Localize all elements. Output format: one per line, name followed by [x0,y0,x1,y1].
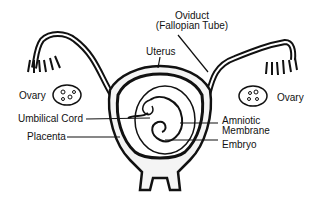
label-placenta: Placenta [27,132,66,142]
amniotic-sac [135,86,195,154]
label-embryo: Embryo [222,140,256,150]
label-amniotic-membrane: Amniotic Membrane [222,116,270,136]
label-ovary-left: Ovary [19,91,46,101]
label-oviduct-line2: (Fallopian Tube) [152,21,232,31]
left-ovary [53,85,81,105]
label-oviduct: Oviduct (Fallopian Tube) [152,11,232,31]
label-amniotic-line2: Membrane [222,126,270,136]
label-uterus: Uterus [146,47,175,57]
label-ovary-right: Ovary [277,93,304,103]
label-umbilical-cord: Umbilical Cord [18,114,83,124]
right-ovary [239,86,267,106]
pregnancy-anatomy-diagram: Oviduct (Fallopian Tube) Uterus Ovary Ov… [0,0,320,209]
uterus-illustration [0,0,320,209]
right-fimbriae [266,58,297,75]
